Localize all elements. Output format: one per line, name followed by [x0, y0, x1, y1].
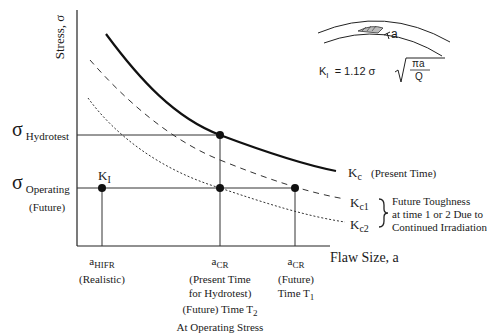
ki-formula: KI = 1.12 σ	[319, 64, 375, 83]
operating-t2-critical-point	[216, 184, 224, 192]
kc2-label: Kc2	[350, 218, 369, 236]
x-tick-acr-future: aCR (Future) Time T1	[278, 254, 315, 304]
hydrotest-critical-point	[216, 131, 224, 139]
brace-icon	[379, 199, 388, 227]
ki-label: KI	[98, 169, 111, 187]
flaw-depth-label: a	[391, 27, 398, 41]
pipe-inner-arc	[324, 34, 442, 56]
operating-t1-critical-point	[291, 184, 299, 192]
future-toughness-note: Future Toughness at time 1 or 2 Due to C…	[392, 195, 487, 234]
x-tick-acr-present: aCR (Present Time for Hydrotest) (Future…	[177, 254, 264, 334]
kc1-curve	[90, 60, 345, 199]
x-axis-label: Flaw Size, a	[330, 251, 399, 265]
kc-label: Kc (Present Time)	[348, 166, 436, 184]
sqrt-numerator: πa	[412, 58, 424, 69]
sqrt-denominator: Q	[415, 71, 423, 82]
kc1-label: Kc1	[350, 196, 369, 214]
operating-future-note: (Future)	[29, 200, 65, 214]
x-tick-ahifr: aHIFR (Realistic)	[79, 254, 125, 286]
flaw-shape	[358, 27, 383, 33]
operating-stress-label: σ Operating	[12, 175, 70, 196]
hydrotest-stress-label: σ Hydrotest	[12, 122, 69, 143]
kc2-curve	[88, 98, 345, 222]
kc-curve	[106, 34, 336, 171]
y-axis-label: Stress, σ	[53, 15, 67, 60]
